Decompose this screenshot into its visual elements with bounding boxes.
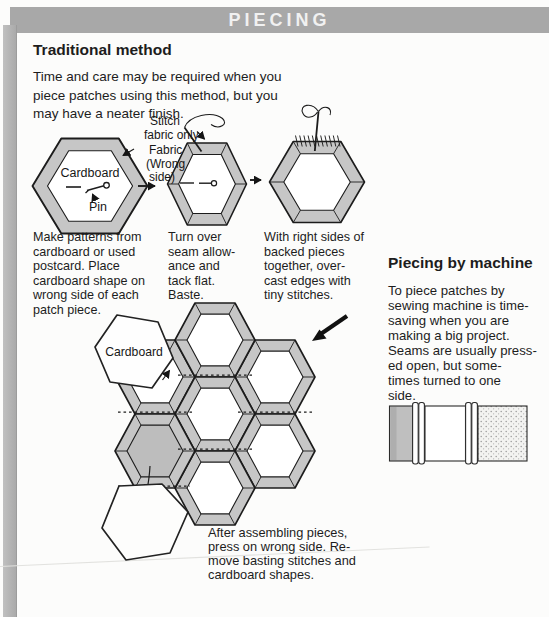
cardboard-patch-hexagon: [33, 139, 148, 234]
basting-stitch-lines: [118, 375, 312, 486]
cardboard-label: Cardboard: [60, 166, 119, 180]
insert-arrow-icon: [163, 371, 170, 381]
figure-arrows: [123, 132, 261, 187]
stitch-pointer-arrow: [197, 132, 205, 140]
section-title: PIECING: [228, 10, 330, 31]
basted-patch-hexagon: [168, 143, 247, 225]
assembly-cardboard-label: Cardboard: [105, 345, 163, 359]
assembly-caption: After assembling pieces, press on wrong …: [208, 526, 388, 582]
piecing-by-machine-paragraph: To piece patches by sewing machine is ti…: [388, 283, 546, 403]
overcast-stitches-icon: [296, 136, 341, 147]
book-page: PIECING Traditional method Time and care…: [0, 0, 549, 617]
stitch-label-line2: fabric only: [144, 128, 199, 142]
seam-allowance-flaps: [413, 403, 478, 465]
machine-seam-figure: [383, 397, 535, 471]
hexagon1-annotations: Cardboard Pin: [60, 166, 119, 214]
big-arrow-icon: [312, 316, 347, 341]
left-patch: [390, 406, 414, 461]
pin-label: Pin: [89, 200, 107, 214]
middle-patch: [425, 406, 466, 461]
intro-paragraph: Time and care may be required when you p…: [33, 68, 282, 124]
step3-caption: With right sides of backed pieces togeth…: [264, 230, 374, 303]
hexagon3-annotations: [302, 105, 330, 151]
fabric-label-line1: Fabric: [149, 143, 182, 157]
page-margin-strip: [3, 25, 17, 617]
remove-arrow-icon: [147, 466, 150, 492]
removed-template-hexagon: [102, 484, 188, 560]
step2-caption: Turn over seam allow- ance and tack flat…: [168, 230, 258, 303]
fabric-label-line3: side): [149, 170, 175, 184]
cardboard-template-overlay: Cardboard: [95, 315, 173, 388]
figure-labels: Stitch fabric only Fabric (Wrong side): [144, 114, 199, 184]
fabric-label-line2: (Wrong: [146, 157, 185, 171]
machine-seam-diagram: [390, 403, 528, 465]
traditional-method-heading: Traditional method: [33, 41, 172, 59]
right-patch: [478, 406, 527, 461]
step1-caption: Make patterns from cardboard or used pos…: [33, 230, 173, 317]
pin-icon: [86, 183, 110, 194]
fabric-pointer-arrow: [123, 149, 134, 156]
needle-icon: [302, 105, 330, 151]
section-header-bar: PIECING: [10, 7, 549, 33]
pin-pointer-arrow: [93, 194, 96, 201]
piecing-by-machine-heading: Piecing by machine: [388, 254, 533, 272]
pin-icon: [199, 181, 217, 186]
hexagon-assembly: [115, 303, 315, 525]
hexagon2-annotations: [180, 115, 225, 186]
overcast-patch-hexagon: [270, 142, 365, 223]
